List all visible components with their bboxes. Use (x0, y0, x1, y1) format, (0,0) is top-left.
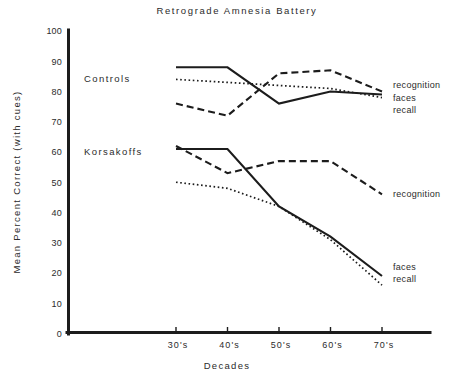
retrograde-amnesia-battery-chart: Retrograde Amnesia Battery 0102030405060… (0, 0, 474, 380)
y-tick-label: 70 (52, 117, 62, 127)
x-axis: 30's40's50's60's70's Decades (67, 327, 430, 371)
y-tick-label: 40 (52, 208, 62, 218)
y-axis: 0102030405060708090100 Mean Percent Corr… (11, 26, 69, 339)
y-tick-label: 20 (52, 268, 62, 278)
series-line-controls-faces (176, 67, 382, 103)
y-tick-label: 30 (52, 238, 62, 248)
series-labels: recognitionfacesrecallrecognitionfacesre… (393, 80, 440, 284)
series-label-korsakoffs-recall: recall (393, 274, 416, 284)
series-label-korsakoffs-faces: faces (393, 262, 416, 272)
y-tick-labels: 0102030405060708090100 (46, 26, 62, 339)
series-line-controls-recall (176, 79, 382, 97)
series-lines (176, 67, 382, 285)
y-tick-label: 100 (46, 26, 62, 36)
group-label-controls: Controls (84, 73, 131, 84)
group-labels: ControlsKorsakoffs (84, 73, 143, 157)
series-label-controls-recall: recall (393, 105, 416, 115)
x-tick-label: 60's (322, 340, 343, 350)
series-line-korsakoffs-recognition (176, 146, 382, 194)
x-axis-title: Decades (204, 360, 251, 371)
x-tick-labels: 30's40's50's60's70's (168, 327, 395, 350)
x-tick-label: 30's (168, 340, 189, 350)
series-label-controls-recognition: recognition (393, 80, 440, 90)
series-label-korsakoffs-recognition: recognition (393, 189, 440, 199)
y-tick-label: 0 (57, 329, 62, 339)
series-label-controls-faces: faces (393, 93, 416, 103)
group-label-korsakoffs: Korsakoffs (84, 146, 143, 157)
y-tick-label: 50 (52, 178, 62, 188)
x-tick-label: 40's (219, 340, 240, 350)
series-line-korsakoffs-recall (176, 182, 382, 285)
y-tick-label: 10 (52, 299, 62, 309)
y-axis-title: Mean Percent Correct (with cues) (11, 90, 22, 273)
y-tick-label: 60 (52, 147, 62, 157)
x-tick-label: 70's (374, 340, 395, 350)
x-tick-label: 50's (271, 340, 292, 350)
y-tick-label: 90 (52, 57, 62, 67)
y-tick-label: 80 (52, 87, 62, 97)
chart-title: Retrograde Amnesia Battery (157, 5, 318, 16)
